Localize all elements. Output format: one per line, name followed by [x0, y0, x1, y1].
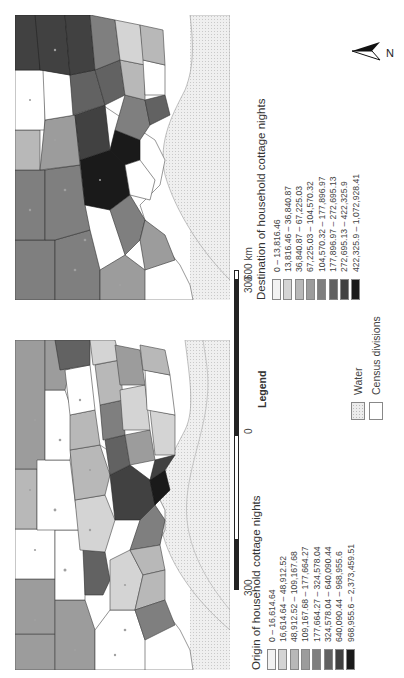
water-swatch [351, 402, 365, 420]
origin-map [15, 340, 230, 670]
legend-class-label: 422,325.9 – 1,072,928.41 [351, 174, 361, 272]
census-divisions-label: Census divisions [370, 316, 382, 395]
legend-class-label: 177,896.97 – 272,695.13 [328, 176, 338, 272]
map-figure: 300 0 300 600 km Legend Origin of househ… [0, 0, 404, 678]
north-arrow [348, 36, 384, 66]
north-label: N [386, 47, 394, 59]
legend-class-label: 324,578.04 – 640,090.44 [323, 546, 333, 642]
legend-class-label: 640,090.44 – 968,955.6 [334, 551, 344, 642]
legend-class-label: 177,664.27 – 324,578.04 [312, 546, 322, 642]
legend-swatch [272, 279, 281, 300]
legend-class-row: 67,225.03 – 104,570.32 [305, 181, 316, 300]
scale-segment [234, 540, 239, 590]
legend-item-water: Water [352, 367, 363, 420]
legend-class-row: 640,090.44 – 968,955.6 [334, 551, 345, 670]
legend-class-label: 0 – 13,816.46 [272, 219, 282, 272]
legend-class-row: 48,912.52 – 109,167.68 [289, 551, 300, 670]
origin-map-shapes [15, 340, 230, 670]
legend-class-label: 36,840.87 – 67,225.03 [294, 186, 304, 272]
legend-class-row: 272,695.13 – 422,325.9 [339, 181, 350, 300]
destination-map [15, 15, 230, 300]
legend-class-label: 16,614.64 – 48,912.52 [278, 556, 288, 642]
destination-legend-title: Destination of household cottage nights [255, 99, 267, 300]
destination-map-shapes [15, 15, 230, 300]
legend-class-row: 968,955.6 – 2,373,459.51 [345, 544, 356, 670]
legend-class-row: 13,816.46 – 36,840.87 [282, 186, 293, 300]
legend-swatch [290, 649, 299, 670]
legend-class-label: 13,816.46 – 36,840.87 [283, 186, 293, 272]
legend-swatch [295, 279, 304, 300]
origin-legend-title: Origin of household cottage nights [250, 495, 262, 670]
legend-class-label: 48,912.52 – 109,167.68 [289, 551, 299, 642]
legend-class-row: 0 – 16,614.64 [266, 589, 277, 670]
legend-swatch [278, 649, 287, 670]
legend-swatch [301, 649, 310, 670]
legend-class-row: 422,325.9 – 1,072,928.41 [350, 174, 361, 300]
legend-swatch [267, 649, 276, 670]
legend-item-census-divisions: Census divisions [370, 316, 381, 420]
legend-swatch [335, 649, 344, 670]
legend-class-row: 0 – 13,816.46 [271, 219, 282, 300]
legend-class-row: 109,167.68 – 177,664.27 [300, 546, 311, 670]
north-arrow-icon [348, 36, 384, 66]
legend-swatch [340, 279, 349, 300]
legend-swatch [346, 649, 355, 670]
scale-segment [234, 270, 239, 280]
legend-class-row: 104,570.32 – 177,896.97 [316, 176, 327, 300]
scale-segment [234, 435, 239, 540]
legend-class-label: 109,167.68 – 177,664.27 [300, 546, 310, 642]
legend-class-row: 177,896.97 – 272,695.13 [328, 176, 339, 300]
legend-class-label: 968,955.6 – 2,373,459.51 [346, 544, 356, 642]
water-label: Water [352, 367, 364, 395]
legend-swatch [283, 279, 292, 300]
legend-class-row: 177,664.27 – 324,578.04 [311, 546, 322, 670]
legend-class-row: 16,614.64 – 48,912.52 [277, 556, 288, 670]
legend-swatch [329, 279, 338, 300]
legend-swatch [324, 649, 333, 670]
legend-swatch [317, 279, 326, 300]
legend-class-label: 272,695.13 – 422,325.9 [339, 181, 349, 272]
legend-class-row: 324,578.04 – 640,090.44 [323, 546, 334, 670]
legend-swatch [306, 279, 315, 300]
scale-label: 0 [243, 428, 254, 434]
scale-unit-label: 600 km [243, 247, 254, 280]
scale-segment [234, 280, 239, 435]
legend-class-label: 104,570.32 – 177,896.97 [317, 176, 327, 272]
legend-swatch [351, 279, 360, 300]
legend-swatch [312, 649, 321, 670]
scale-bar [234, 270, 240, 590]
legend-heading: Legend [256, 371, 268, 408]
legend-class-row: 36,840.87 – 67,225.03 [294, 186, 305, 300]
legend-class-label: 67,225.03 – 104,570.32 [305, 181, 315, 272]
legend-class-label: 0 – 16,614.64 [267, 589, 277, 642]
census-divisions-swatch [369, 402, 383, 420]
